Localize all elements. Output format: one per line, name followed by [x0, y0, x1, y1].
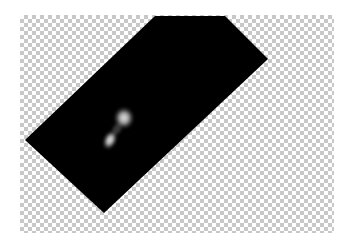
image-canvas	[0, 0, 348, 250]
rotated-astronomy-photo	[0, 0, 348, 250]
photo-frame	[25, 16, 268, 213]
